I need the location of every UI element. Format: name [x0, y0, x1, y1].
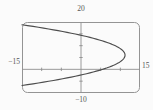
xmax-window-label: 15: [142, 61, 153, 71]
parabola-curve: [22, 25, 125, 86]
ymin-window-label: −10: [71, 95, 91, 105]
ymax-window-label: 20: [71, 4, 91, 14]
xmin-window-label: −15: [0, 57, 20, 67]
plot-canvas: [0, 0, 153, 110]
calculator-graph-figure: 20 −15 15 −10: [0, 0, 153, 110]
